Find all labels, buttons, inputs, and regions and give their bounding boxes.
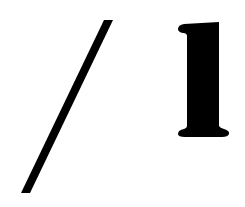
glyph-canvas: / l (0, 0, 245, 207)
glyph-drawing (0, 0, 245, 207)
slash-glyph (21, 20, 113, 193)
serif-l-glyph (178, 22, 229, 137)
